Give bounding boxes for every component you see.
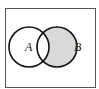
set-b-label: B [74, 40, 82, 54]
venn-diagram: A B [0, 0, 99, 89]
set-a-label: A [24, 40, 33, 54]
